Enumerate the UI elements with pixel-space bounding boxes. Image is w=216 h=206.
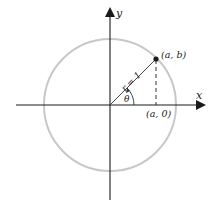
point-label: (a, b): [161, 49, 186, 60]
angle-label: θ: [124, 94, 130, 104]
radius-label: r = 1: [119, 70, 143, 94]
unit-circle-diagram: y x (a, b) (a, 0) θ r = 1: [0, 0, 216, 206]
y-axis-label: y: [115, 7, 123, 20]
x-axis-label: x: [196, 89, 203, 102]
point-a-b: [153, 56, 158, 61]
foot-label: (a, 0): [146, 108, 171, 119]
y-axis-arrow-icon: [105, 7, 115, 17]
